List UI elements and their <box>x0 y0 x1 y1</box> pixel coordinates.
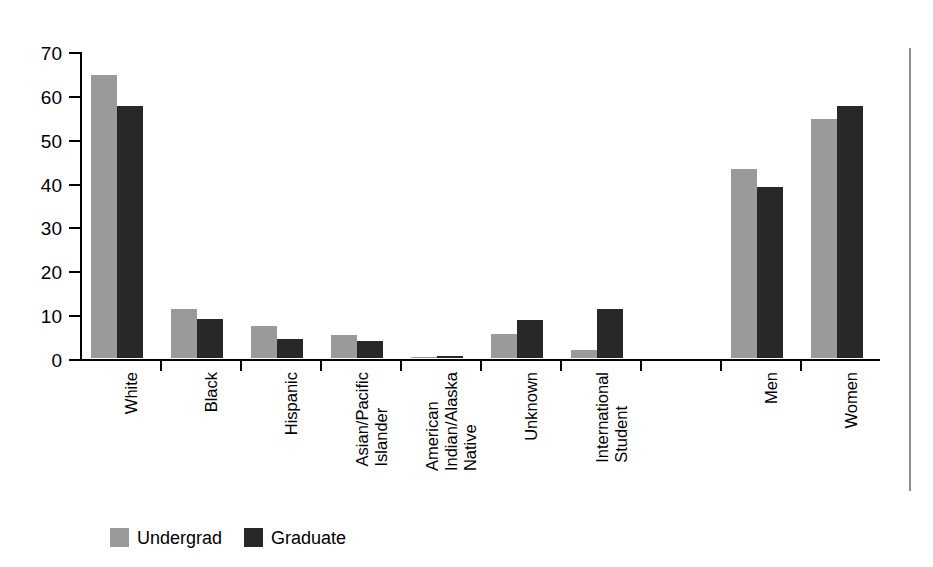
y-tick-label: 60 <box>41 87 62 106</box>
x-category-label-hispanic: Hispanic <box>282 372 301 435</box>
y-tick: 60 <box>69 96 80 98</box>
legend-label-graduate: Graduate <box>271 529 346 547</box>
y-tick: 70 <box>69 52 80 54</box>
x-tick <box>480 361 482 371</box>
x-tick <box>240 361 242 371</box>
label-line: Women <box>842 372 861 429</box>
bar-graduate-men <box>757 187 783 358</box>
bar-graduate-asian-pacific-islander <box>357 341 383 358</box>
bar-undergrad-men <box>731 169 757 358</box>
bar-undergrad-women <box>811 119 837 358</box>
y-tick-label: 10 <box>41 307 62 326</box>
label-line: Asian/Pacific <box>353 372 372 466</box>
bar-chart-figure: 010203040506070 WhiteBlackHispanicAsian/… <box>0 0 933 567</box>
page-margin-rule <box>909 48 911 491</box>
x-tick <box>160 361 162 371</box>
bar-graduate-international-student <box>597 309 623 358</box>
bar-undergrad-unknown <box>491 334 517 358</box>
x-tick <box>560 361 562 371</box>
bar-undergrad-white <box>91 75 117 358</box>
y-tick: 40 <box>69 184 80 186</box>
label-line: Student <box>612 372 631 463</box>
legend-swatch-graduate <box>244 528 263 547</box>
x-tick <box>640 361 642 371</box>
y-tick-label: 30 <box>41 219 62 238</box>
bar-graduate-unknown <box>517 320 543 358</box>
bar-graduate-women <box>837 106 863 358</box>
label-line: Black <box>202 372 221 412</box>
legend-label-undergrad: Undergrad <box>137 529 222 547</box>
bar-undergrad-american-indian-alaska-native <box>411 357 437 359</box>
x-category-label-international-student: InternationalStudent <box>593 372 631 463</box>
x-tick <box>800 361 802 371</box>
y-tick-label: 40 <box>41 175 62 194</box>
bar-graduate-american-indian-alaska-native <box>437 356 463 358</box>
bar-undergrad-asian-pacific-islander <box>331 335 357 358</box>
bar-undergrad-international-student <box>571 350 597 358</box>
bar-undergrad-hispanic <box>251 326 277 358</box>
label-line: American <box>423 372 442 471</box>
y-tick: 50 <box>69 140 80 142</box>
label-line: Indian/Alaska <box>442 372 461 471</box>
x-category-label-black: Black <box>202 372 221 412</box>
y-tick: 20 <box>69 271 80 273</box>
label-line: Men <box>762 372 781 404</box>
label-line: White <box>122 372 141 414</box>
x-category-label-white: White <box>122 372 141 414</box>
label-line: Islander <box>372 372 391 466</box>
x-category-label-unknown: Unknown <box>522 372 541 441</box>
legend-item-graduate: Graduate <box>244 528 346 547</box>
y-tick-label: 70 <box>41 44 62 63</box>
y-axis-line <box>80 52 82 361</box>
x-category-label-men: Men <box>762 372 781 404</box>
bar-graduate-black <box>197 319 223 358</box>
x-tick <box>400 361 402 371</box>
label-line: Native <box>461 372 480 471</box>
plot-area: 010203040506070 <box>80 52 880 360</box>
label-line: Hispanic <box>282 372 301 435</box>
legend-swatch-undergrad <box>110 528 129 547</box>
y-tick-label: 20 <box>41 263 62 282</box>
y-tick: 30 <box>69 227 80 229</box>
y-tick: 10 <box>69 315 80 317</box>
bar-graduate-hispanic <box>277 339 303 358</box>
legend-item-undergrad: Undergrad <box>110 528 222 547</box>
y-tick: 0 <box>69 359 80 361</box>
label-line: Unknown <box>522 372 541 441</box>
x-tick <box>720 361 722 371</box>
label-line: International <box>593 372 612 463</box>
bar-undergrad-black <box>171 309 197 358</box>
bar-graduate-white <box>117 106 143 358</box>
x-category-label-american-indian-alaska-native: AmericanIndian/AlaskaNative <box>423 372 480 471</box>
y-tick-label: 0 <box>51 351 62 370</box>
x-tick <box>320 361 322 371</box>
chart-legend: Undergrad Graduate <box>110 528 346 547</box>
y-tick-label: 50 <box>41 131 62 150</box>
x-category-label-asian-pacific-islander: Asian/PacificIslander <box>353 372 391 466</box>
x-category-label-women: Women <box>842 372 861 429</box>
